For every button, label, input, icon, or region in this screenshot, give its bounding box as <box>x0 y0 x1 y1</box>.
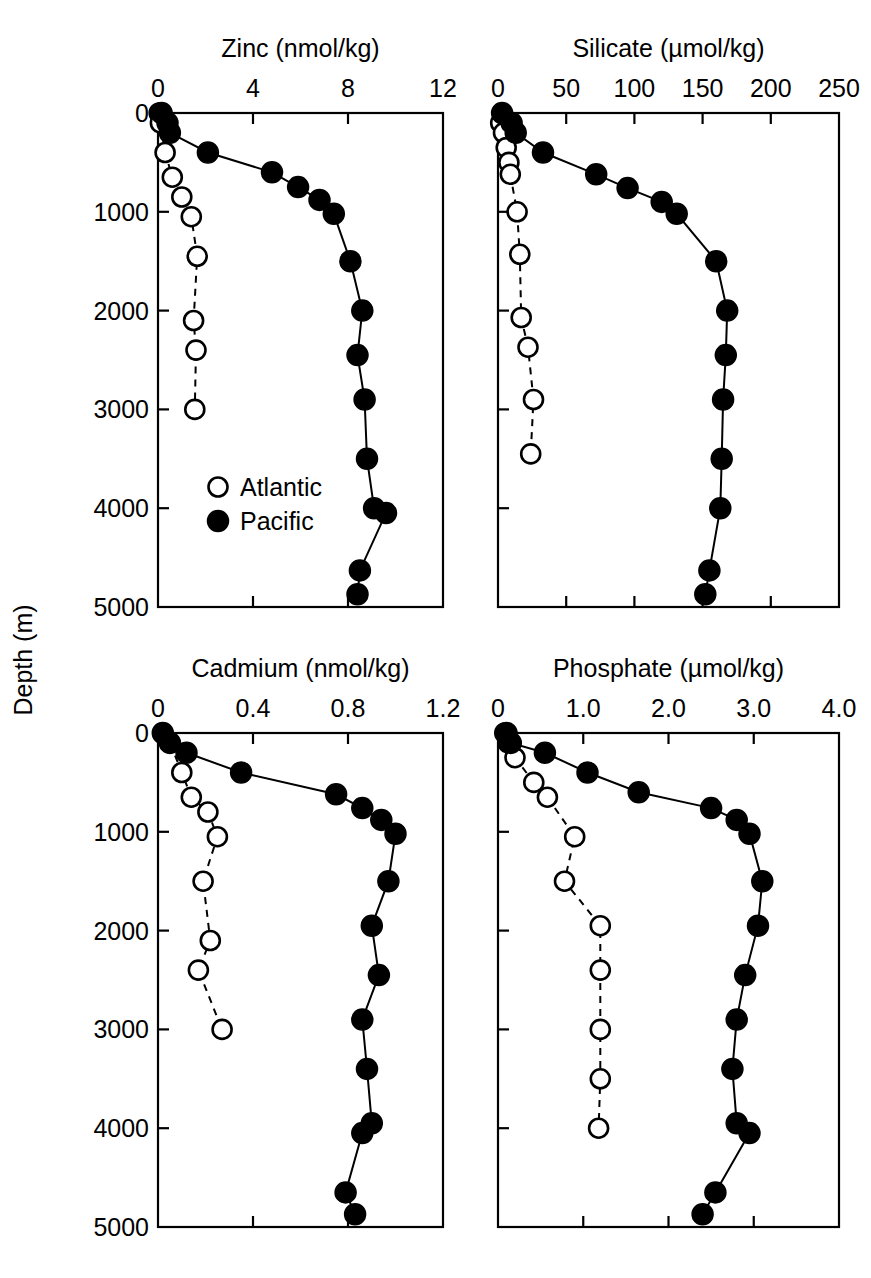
data-point-pacific <box>695 584 716 605</box>
data-point-pacific <box>349 560 370 581</box>
data-point-pacific <box>378 871 399 892</box>
x-tick-label: 3.0 <box>736 694 771 722</box>
x-tick-label: 4 <box>246 74 260 102</box>
data-point-pacific <box>361 915 382 936</box>
data-point-atlantic <box>512 308 531 327</box>
data-point-atlantic <box>521 444 540 463</box>
data-point-atlantic <box>555 872 574 891</box>
data-point-pacific <box>335 1182 356 1203</box>
plot-frame-top-right <box>498 113 839 607</box>
data-point-atlantic <box>508 202 527 221</box>
data-point-pacific <box>722 1058 743 1079</box>
y-tick-label: 2000 <box>93 297 149 325</box>
data-point-atlantic <box>538 788 557 807</box>
data-point-pacific <box>340 251 361 272</box>
x-tick-label: 250 <box>818 74 860 102</box>
panel-bottom-left: Cadmium (nmol/kg)00.40.81.20100020003000… <box>93 654 460 1241</box>
data-point-pacific <box>628 782 649 803</box>
data-point-atlantic <box>565 827 584 846</box>
data-point-pacific <box>354 389 375 410</box>
data-point-pacific <box>533 142 554 163</box>
data-point-pacific <box>735 965 756 986</box>
data-point-pacific <box>357 448 378 469</box>
data-point-atlantic <box>589 1119 608 1138</box>
data-point-atlantic <box>524 390 543 409</box>
x-tick-label: 0 <box>151 694 165 722</box>
data-point-pacific <box>748 915 769 936</box>
data-point-pacific <box>500 732 521 753</box>
data-point-pacific <box>159 122 180 143</box>
x-tick-label: 0 <box>491 694 505 722</box>
data-point-pacific <box>739 823 760 844</box>
data-point-pacific <box>586 164 607 185</box>
data-point-pacific <box>715 345 736 366</box>
data-point-pacific <box>368 965 389 986</box>
x-tick-label: 50 <box>552 74 580 102</box>
legend-label-atlantic: Atlantic <box>240 473 322 501</box>
data-point-pacific <box>577 762 598 783</box>
data-point-atlantic <box>182 207 201 226</box>
x-tick-label: 1.2 <box>426 694 461 722</box>
data-point-pacific <box>197 142 218 163</box>
x-tick-label: 8 <box>341 74 355 102</box>
data-point-atlantic <box>510 245 529 264</box>
data-point-pacific <box>710 498 731 519</box>
data-point-pacific <box>713 389 734 410</box>
x-tick-label: 2.0 <box>651 694 686 722</box>
data-point-pacific <box>699 560 720 581</box>
data-point-atlantic <box>189 961 208 980</box>
data-point-atlantic <box>184 311 203 330</box>
data-point-pacific <box>692 1204 713 1225</box>
data-point-atlantic <box>198 803 217 822</box>
y-tick-label: 1000 <box>93 198 149 226</box>
x-tick-label: 0 <box>151 74 165 102</box>
y-tick-label: 5000 <box>93 1213 149 1241</box>
data-point-atlantic <box>163 168 182 187</box>
panel-bottom-right: Phosphate (µmol/kg)01.02.03.04.0 <box>491 654 856 1227</box>
data-point-atlantic <box>208 827 227 846</box>
data-point-atlantic <box>591 961 610 980</box>
y-tick-label: 3000 <box>93 1015 149 1043</box>
data-point-pacific <box>701 798 722 819</box>
data-point-pacific <box>739 1123 760 1144</box>
y-tick-label: 1000 <box>93 818 149 846</box>
data-point-atlantic <box>201 931 220 950</box>
data-point-pacific <box>717 300 738 321</box>
data-point-pacific <box>345 1204 366 1225</box>
y-tick-label: 4000 <box>93 494 149 522</box>
data-point-pacific <box>323 203 344 224</box>
data-point-pacific <box>617 178 638 199</box>
x-tick-label: 4.0 <box>822 694 857 722</box>
data-point-atlantic <box>187 341 206 360</box>
data-point-pacific <box>347 584 368 605</box>
data-point-atlantic <box>188 247 207 266</box>
y-tick-label: 3000 <box>93 395 149 423</box>
data-point-pacific <box>505 122 526 143</box>
panel-top-right: Silicate (µmol/kg)050100150200250 <box>491 34 860 607</box>
oceanographic-depth-profile-figure: Depth (m)Zinc (nmol/kg)04812010002000300… <box>0 0 871 1278</box>
y-tick-label: 4000 <box>93 1114 149 1142</box>
x-tick-label: 0 <box>491 74 505 102</box>
data-point-pacific <box>357 1058 378 1079</box>
data-point-pacific <box>288 177 309 198</box>
data-point-atlantic <box>172 763 191 782</box>
x-tick-label: 12 <box>429 74 457 102</box>
data-point-atlantic <box>156 143 175 162</box>
legend-marker-atlantic <box>209 478 228 497</box>
data-point-atlantic <box>182 788 201 807</box>
data-point-pacific <box>534 742 555 763</box>
data-point-pacific <box>326 784 347 805</box>
legend-marker-pacific <box>208 511 229 532</box>
x-tick-label: 0.4 <box>236 694 271 722</box>
legend-label-pacific: Pacific <box>240 507 314 535</box>
data-point-pacific <box>705 1182 726 1203</box>
data-point-pacific <box>752 871 773 892</box>
data-point-pacific <box>352 798 373 819</box>
data-point-pacific <box>666 203 687 224</box>
panel-title-top-right: Silicate (µmol/kg) <box>572 34 764 62</box>
figure-canvas: Depth (m)Zinc (nmol/kg)04812010002000300… <box>0 0 871 1278</box>
data-point-pacific <box>352 1009 373 1030</box>
data-point-pacific <box>347 345 368 366</box>
x-tick-label: 200 <box>750 74 792 102</box>
panel-title-bottom-left: Cadmium (nmol/kg) <box>191 654 409 682</box>
